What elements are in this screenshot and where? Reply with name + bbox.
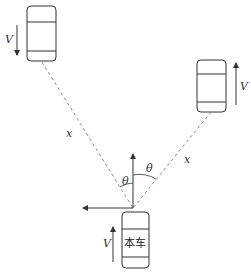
left-velocity-label: V xyxy=(5,33,14,46)
right-angle-label: θ xyxy=(146,162,153,175)
left-distance-line xyxy=(42,62,133,208)
right-car xyxy=(197,60,226,112)
right-distance-line xyxy=(133,112,211,208)
right-distance-label: x xyxy=(184,153,191,166)
origin-velocity-label: V xyxy=(103,237,112,250)
left-distance-label: x xyxy=(66,127,73,140)
left-car xyxy=(27,6,56,61)
diagram-canvas: V V x x θ θ 本车 V xyxy=(0,0,251,274)
left-angle-label: θ xyxy=(122,175,129,188)
origin-car-label: 本车 xyxy=(124,236,146,250)
right-velocity-label: V xyxy=(240,80,249,93)
right-angle-arc xyxy=(133,174,156,179)
